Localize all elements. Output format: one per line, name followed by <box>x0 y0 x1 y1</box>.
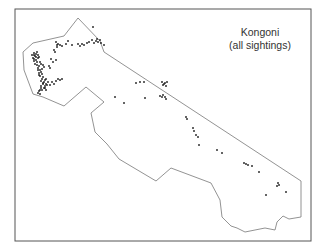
sighting-point <box>44 87 46 89</box>
sighting-point <box>59 79 61 81</box>
sighting-point <box>36 61 38 63</box>
sighting-point <box>35 56 37 58</box>
sighting-point <box>247 164 249 166</box>
sighting-point <box>31 54 33 56</box>
sighting-point <box>35 53 37 55</box>
sighting-point <box>277 182 279 184</box>
sighting-point <box>55 80 57 82</box>
sighting-point <box>83 44 85 46</box>
sighting-point <box>265 194 267 196</box>
sighting-point <box>192 127 194 129</box>
sighting-point <box>56 46 58 48</box>
sighting-point <box>165 98 167 100</box>
sighting-point <box>77 43 79 45</box>
sighting-point <box>144 97 146 99</box>
sighting-point <box>36 51 38 53</box>
sighting-point <box>159 95 161 97</box>
sighting-point <box>186 118 188 120</box>
sighting-point <box>88 41 90 43</box>
sighting-point <box>139 81 141 83</box>
sighting-point <box>216 149 218 151</box>
sighting-point <box>164 96 166 98</box>
sighting-point <box>96 38 98 40</box>
sighting-point <box>278 184 280 186</box>
sighting-point <box>197 136 199 138</box>
sighting-point <box>42 64 44 66</box>
sighting-point <box>166 81 168 83</box>
sighting-point <box>193 130 195 132</box>
sighting-point <box>45 78 47 80</box>
sighting-point <box>91 39 93 41</box>
sighting-point <box>41 78 43 80</box>
sighting-point <box>39 61 41 63</box>
sighting-point <box>97 41 99 43</box>
sighting-point <box>39 93 41 95</box>
sighting-point <box>57 78 59 80</box>
sighting-point <box>54 51 56 53</box>
sighting-point <box>47 81 49 83</box>
sighting-point <box>164 82 166 84</box>
sighting-point <box>55 59 57 61</box>
sighting-point <box>42 82 44 84</box>
sighting-point <box>251 165 253 167</box>
sighting-point <box>135 82 137 84</box>
sighting-point <box>79 45 81 47</box>
sighting-point <box>38 56 40 58</box>
sighting-point <box>56 44 58 46</box>
sighting-point <box>93 42 95 44</box>
sighting-point <box>35 59 37 61</box>
sighting-point <box>38 74 40 76</box>
sighting-point <box>33 54 35 56</box>
sighting-point <box>52 61 54 63</box>
sighting-point <box>61 45 63 47</box>
sighting-point <box>38 90 40 92</box>
sighting-point <box>185 116 187 118</box>
map-title: Kongoni (all sightings) <box>222 26 298 52</box>
sighting-point <box>86 42 88 44</box>
sighting-point <box>36 64 38 66</box>
sighting-point <box>276 185 278 187</box>
sighting-point <box>67 40 69 42</box>
sighting-point <box>38 65 40 67</box>
sighting-point <box>55 41 57 43</box>
sighting-point <box>61 78 63 80</box>
sighting-point <box>243 162 245 164</box>
sighting-point <box>37 92 39 94</box>
sighting-point <box>37 67 39 69</box>
sighting-point <box>51 81 53 83</box>
sighting-point <box>114 96 116 98</box>
sighting-point <box>123 102 125 104</box>
sighting-point <box>34 63 36 65</box>
sighting-point <box>33 60 35 62</box>
sighting-point <box>195 134 197 136</box>
sighting-point <box>103 44 105 46</box>
sighting-point <box>43 66 45 68</box>
sighting-point <box>41 73 43 75</box>
sighting-point <box>38 72 40 74</box>
sighting-point <box>59 44 61 46</box>
sighting-point <box>81 43 83 45</box>
sighting-point <box>40 71 42 73</box>
sighting-point <box>99 39 101 41</box>
sighting-point <box>100 42 102 44</box>
sighting-point <box>33 52 35 54</box>
sighting-point <box>162 94 164 96</box>
sighting-point <box>41 89 43 91</box>
sighting-point <box>41 68 43 70</box>
map-title-subtitle: (all sightings) <box>222 39 298 52</box>
sighting-point <box>49 67 51 69</box>
sighting-point <box>143 81 145 83</box>
sighting-point <box>285 191 287 193</box>
sighting-point <box>45 83 47 85</box>
sighting-point <box>40 63 42 65</box>
sighting-point <box>32 57 34 59</box>
sighting-point <box>53 83 55 85</box>
sighting-point <box>165 85 167 87</box>
sighting-point <box>49 84 51 86</box>
sighting-point <box>65 43 67 45</box>
sighting-point <box>53 49 55 51</box>
sighting-point <box>40 80 42 82</box>
map-title-species: Kongoni <box>222 26 298 39</box>
sighting-point <box>44 85 46 87</box>
sighting-point <box>245 163 247 165</box>
